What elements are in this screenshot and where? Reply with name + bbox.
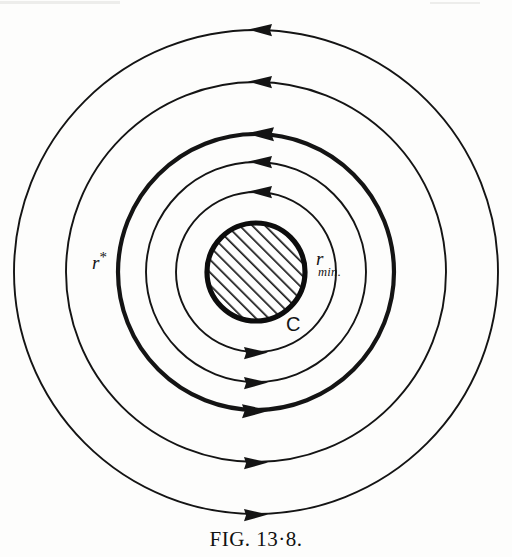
label-r-star: r* [92, 250, 107, 272]
label-r-min-subscript: min. [318, 266, 341, 279]
label-r-min: rmin. [316, 249, 341, 279]
figure-caption-text: FIG. 13·8. [209, 527, 302, 551]
figure-caption: FIG. 13·8. [0, 527, 512, 552]
scan-artifact [430, 2, 480, 4]
arrowhead-bottom-5 [244, 509, 268, 521]
arrowhead-bottom-2 [244, 377, 268, 389]
arrowhead-top-4 [248, 76, 272, 88]
streamline-diagram [0, 0, 512, 557]
arrowhead-bottom-1 [244, 347, 268, 359]
label-center-c: C [286, 314, 300, 334]
arrowhead-bottom-3 [242, 404, 270, 418]
arrowhead-top-5 [248, 24, 272, 36]
arrowhead-bottom-4 [244, 457, 268, 469]
scan-artifact [0, 1, 120, 4]
flow-arrowheads-top [246, 24, 274, 198]
arrowhead-top-1 [248, 186, 272, 198]
flow-arrowheads-bottom [242, 347, 270, 521]
figure-page: r* rmin. C FIG. 13·8. [0, 0, 512, 557]
label-r-star-superscript: * [99, 249, 107, 265]
arrowhead-top-3 [246, 127, 274, 141]
core-disk [207, 223, 305, 321]
arrowhead-top-2 [248, 156, 272, 168]
